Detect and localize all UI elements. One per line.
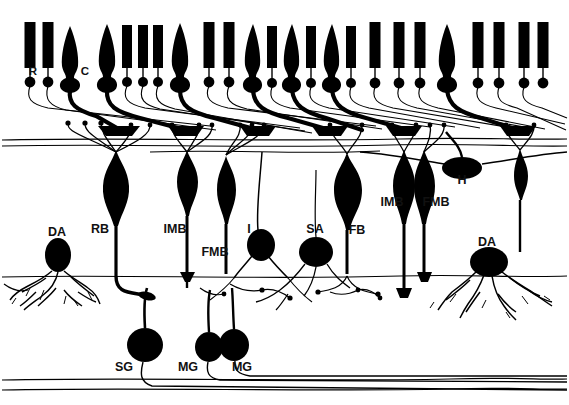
- diagram-canvas: R C H DA RB IMB FMB I SA FB IMB FMB DA S…: [0, 0, 569, 405]
- label-da-left: DA: [48, 225, 66, 239]
- label-fb: FB: [349, 223, 366, 237]
- label-imb-right: IMB: [381, 195, 404, 209]
- label-fmb-left: FMB: [201, 245, 228, 259]
- label-sg: SG: [115, 360, 133, 374]
- label-imb-left: IMB: [164, 222, 187, 236]
- label-interplexiform: I: [247, 222, 250, 236]
- label-horizontal-cell: H: [457, 173, 466, 187]
- label-mg-right: MG: [232, 360, 252, 374]
- label-mg-left: MG: [178, 360, 198, 374]
- label-sa: SA: [306, 222, 323, 236]
- retina-diagram-figure: R C H DA RB IMB FMB I SA FB IMB FMB DA S…: [0, 0, 569, 405]
- label-rb: RB: [91, 222, 109, 236]
- label-cone: C: [81, 65, 89, 77]
- label-fmb-right: FMB: [422, 195, 449, 209]
- label-da-right: DA: [478, 235, 496, 249]
- label-rod: R: [29, 65, 38, 77]
